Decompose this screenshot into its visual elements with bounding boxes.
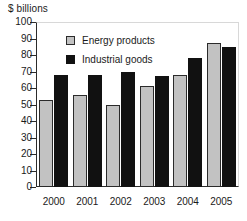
y-axis-tick-label: 60 <box>8 83 32 93</box>
y-axis-tick-label: 40 <box>8 116 32 126</box>
bar-group <box>39 22 68 187</box>
y-axis-tick-label: 0 <box>8 182 32 192</box>
legend-item-industrial-goods: Industrial goods <box>66 51 155 67</box>
x-axis-tick-label: 2001 <box>70 196 104 208</box>
x-axis-tick-label: 2005 <box>204 196 238 208</box>
x-axis-tick-label: 2000 <box>37 196 71 208</box>
bar-industrial-goods <box>222 47 236 187</box>
y-axis-tick-label: 50 <box>8 100 32 110</box>
bar-chart: $ billions 0102030405060708090100 200020… <box>0 0 247 221</box>
bar-industrial-goods <box>188 58 202 187</box>
y-axis-tick-label: 80 <box>8 50 32 60</box>
bar-energy-products <box>73 95 87 187</box>
gray-square-swatch-icon <box>66 36 75 45</box>
bar-industrial-goods <box>155 76 169 187</box>
y-axis-title: $ billions <box>8 3 48 15</box>
bar-group <box>207 22 236 187</box>
bar-industrial-goods <box>88 75 102 187</box>
bar-industrial-goods <box>54 75 68 187</box>
legend-label: Energy products <box>82 35 155 46</box>
legend-label: Industrial goods <box>82 54 153 65</box>
y-axis-tick-label: 30 <box>8 133 32 143</box>
bar-energy-products <box>39 100 53 187</box>
bar-energy-products <box>173 75 187 187</box>
y-axis-tick-label: 90 <box>8 34 32 44</box>
y-axis-tick-label: 20 <box>8 149 32 159</box>
black-square-swatch-icon <box>66 55 75 64</box>
y-axis-tick-label: 70 <box>8 67 32 77</box>
y-axis-tick-label: 10 <box>8 166 32 176</box>
chart-legend: Energy products Industrial goods <box>66 32 155 70</box>
x-axis-tick-label: 2003 <box>137 196 171 208</box>
bar-industrial-goods <box>121 72 135 188</box>
bar-energy-products <box>106 105 120 188</box>
bar-energy-products <box>207 43 221 187</box>
x-axis-tick-label: 2004 <box>171 196 205 208</box>
x-axis-tick-label: 2002 <box>104 196 138 208</box>
bar-energy-products <box>140 86 154 187</box>
y-axis-tick-label: 100 <box>8 17 32 27</box>
bar-group <box>173 22 202 187</box>
legend-item-energy-products: Energy products <box>66 32 155 48</box>
